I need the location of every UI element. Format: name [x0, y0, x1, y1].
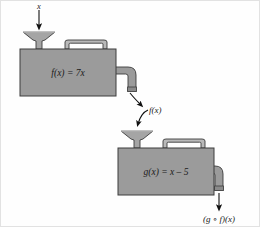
machine-f-expression: f(x) = 7x: [51, 68, 85, 79]
funnel-f: [23, 32, 55, 49]
spout-f: [114, 67, 136, 92]
intermediate-arrow-group: [130, 93, 148, 124]
machine-g-expression: g(x) = x – 5: [144, 167, 189, 178]
function-machine-diagram: f(x) = 7x g(x) = x – 5: [0, 0, 260, 227]
input-label: x: [36, 1, 41, 11]
output-label: (g ∘ f)(x): [203, 214, 235, 224]
diagram-canvas: f(x) = 7x g(x) = x – 5: [1, 1, 260, 227]
machine-g: g(x) = x – 5: [118, 148, 214, 195]
intermediate-arrow-out: [130, 93, 141, 105]
spout-g-tip: [215, 186, 224, 191]
handle-g: [163, 139, 205, 148]
funnel-g: [121, 131, 153, 148]
funnel-f-shape: [23, 32, 55, 49]
intermediate-arrow-in: [138, 110, 148, 124]
spout-f-tip: [128, 87, 137, 92]
handle-g-shape: [163, 139, 205, 148]
handle-f: [65, 40, 107, 49]
machine-f: f(x) = 7x: [20, 49, 116, 96]
handle-f-shape: [65, 40, 107, 49]
funnel-g-shape: [121, 131, 153, 148]
intermediate-label: f(x): [149, 105, 162, 115]
